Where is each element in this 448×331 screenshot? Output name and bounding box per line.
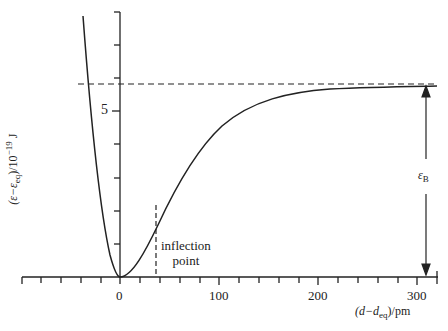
- x-tick-label-300: 300: [407, 288, 427, 304]
- inflection-annotation: inflection point: [161, 238, 211, 268]
- y-axis-title-suffix: J: [6, 134, 20, 142]
- y-axis-title: (ε−εeq)/10−19 J: [4, 104, 22, 234]
- epsilon-b-sub: B: [423, 174, 429, 184]
- inflection-annotation-line1: inflection: [161, 238, 211, 253]
- x-tick-label-100: 100: [209, 288, 229, 304]
- x-tick-label-0: 0: [116, 288, 123, 304]
- y-tick-label-5: 5: [101, 102, 108, 118]
- potential-curve: [83, 16, 437, 277]
- x-tick-label-200: 200: [308, 288, 328, 304]
- y-axis-title-prefix: (ε−ε: [6, 183, 20, 205]
- x-axis-title-prefix: (d−d: [355, 304, 379, 318]
- inflection-annotation-line2: point: [161, 253, 211, 268]
- y-axis-title-sup: −19: [4, 141, 14, 155]
- y-axis: [112, 12, 120, 277]
- x-axis-title-sub: eq: [379, 310, 388, 320]
- x-axis: [22, 271, 438, 285]
- x-axis-title: (d−deq)/pm: [355, 304, 410, 320]
- y-axis-title-sub: eq: [12, 175, 22, 184]
- chart-plot-area: [0, 0, 448, 331]
- y-axis-title-mid: )/10: [6, 155, 20, 174]
- epsilon-b-label: εB: [418, 168, 429, 184]
- x-axis-title-suffix: )/pm: [388, 304, 411, 318]
